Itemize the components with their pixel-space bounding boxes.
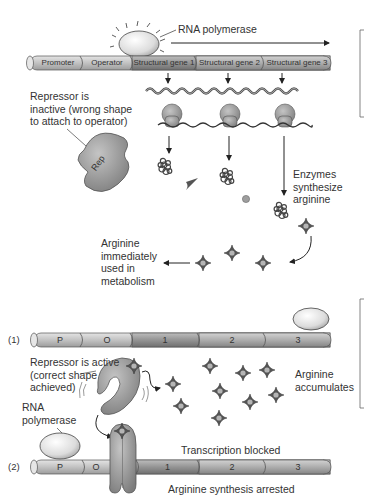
row2-segment-1: 1 <box>137 460 198 474</box>
row1-index: (1) <box>8 334 20 347</box>
enzymes <box>158 158 288 218</box>
rna-polymerase-label: RNA polymerase <box>178 23 257 36</box>
segment-promoter: Promoter <box>33 56 83 70</box>
bracket-top <box>360 30 364 117</box>
enzymes-label: Enzymes synthesize arginine <box>293 168 343 206</box>
segment-operator: Operator <box>83 56 131 70</box>
row1-segment-1: 1 <box>132 333 198 347</box>
row2-segment-o: O <box>83 460 109 474</box>
flow-arrow <box>290 236 311 262</box>
rna-polymerase-row1 <box>293 308 329 330</box>
arginine-used-label: Arginine immediately used in metabolism <box>101 237 157 287</box>
row2-segment-2: 2 <box>200 460 264 474</box>
rna-polymerase-top <box>110 21 176 57</box>
row1-segment-2: 2 <box>200 333 264 347</box>
rna-polymerase-label-row2: RNA polymerase <box>22 401 76 426</box>
segment-structural-gene-2: Structural gene 2 <box>197 56 262 70</box>
repressor-inactive-label: Repressor is inactive (wrong shape to at… <box>30 90 132 128</box>
gene-arrows <box>168 73 282 83</box>
arginine-molecules-top <box>195 218 314 271</box>
row2-segment-p: P <box>37 460 83 474</box>
enzyme-arrows <box>169 136 284 195</box>
repressor-active-label: Repressor is active (correct shape achie… <box>30 356 119 394</box>
substrate-dot <box>242 195 249 202</box>
row1-segment-p: P <box>37 333 83 347</box>
row1-segment-o: O <box>83 333 131 347</box>
rna-polymerase-row2 <box>40 433 80 459</box>
segment-structural-gene-1: Structural gene 1 <box>132 56 196 70</box>
bracket-bottom <box>360 299 364 408</box>
segment-structural-gene-3: Structural gene 3 <box>264 56 330 70</box>
repressor-bound <box>110 423 139 493</box>
arginine-accumulates-label: Arginine accumulates <box>295 368 354 393</box>
row2-index: (2) <box>8 461 20 474</box>
arginine-synthesis-arrested-label: Arginine synthesis arrested <box>168 483 295 496</box>
substrate-fragment <box>186 178 198 190</box>
row2-segment-3: 3 <box>266 460 330 474</box>
arginine-molecules-accumulated <box>165 358 284 426</box>
binding-arrow <box>96 415 112 437</box>
row1-segment-3: 3 <box>266 333 330 347</box>
transcription-blocked-label: Transcription blocked <box>181 444 280 457</box>
ribosomes <box>158 104 312 127</box>
